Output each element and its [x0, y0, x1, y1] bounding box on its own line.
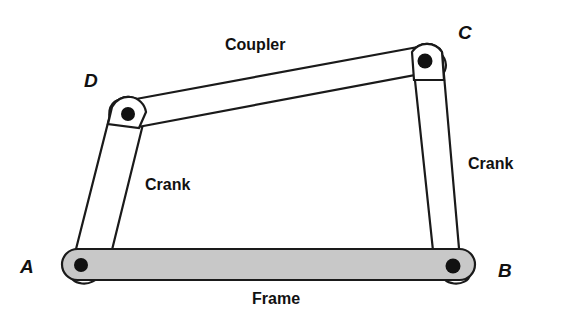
four-bar-linkage-diagram: A B C D Coupler Crank Crank Frame [0, 0, 561, 324]
joint-label-c: C [458, 22, 472, 44]
pin-a [74, 258, 88, 272]
pin-c [418, 54, 433, 69]
link-coupler [136, 47, 420, 127]
pin-b [446, 259, 461, 274]
joint-label-d: D [84, 70, 98, 92]
link-frame [62, 249, 475, 280]
label-coupler: Coupler [225, 36, 285, 54]
label-frame: Frame [252, 290, 300, 308]
joint-label-b: B [498, 260, 512, 282]
label-crank-right: Crank [468, 155, 513, 173]
joint-label-a: A [20, 256, 34, 278]
pin-d [121, 107, 135, 121]
label-crank-left: Crank [145, 176, 190, 194]
